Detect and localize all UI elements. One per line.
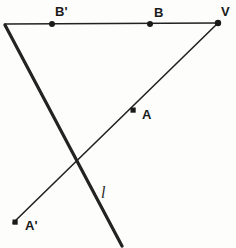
label-point-b-prime: B' bbox=[55, 5, 67, 18]
segment-v-a-aprime bbox=[13, 23, 218, 223]
label-point-b: B bbox=[154, 6, 163, 19]
diagram-svg bbox=[0, 0, 236, 248]
label-point-a: A bbox=[142, 108, 151, 121]
point-dot-v bbox=[215, 20, 221, 26]
segment-horizontal-vb bbox=[5, 23, 218, 24]
label-line-l: l bbox=[101, 185, 105, 201]
point-dot-b bbox=[147, 21, 153, 27]
label-vertex-v: V bbox=[221, 5, 230, 18]
point-dot-b-prime bbox=[49, 21, 55, 27]
geometry-figure: V B B' A A' l bbox=[0, 0, 236, 248]
point-dot-a-prime bbox=[13, 220, 18, 225]
point-dot-a bbox=[131, 108, 136, 113]
label-point-a-prime: A' bbox=[25, 219, 37, 232]
